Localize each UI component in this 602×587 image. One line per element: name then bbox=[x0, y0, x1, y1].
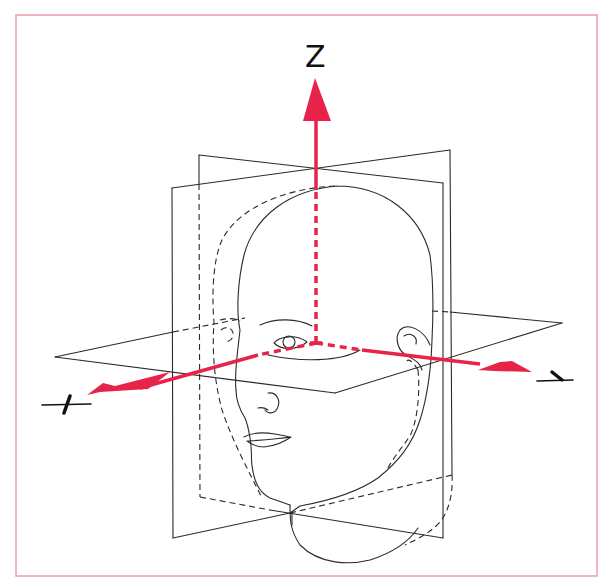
head-outline bbox=[235, 186, 432, 513]
y-arrowhead bbox=[478, 361, 532, 372]
y-axis-label-mark bbox=[537, 372, 573, 381]
iris bbox=[283, 336, 295, 348]
neck-outline bbox=[290, 505, 418, 563]
ear bbox=[397, 327, 430, 370]
jaw-profile-outline bbox=[405, 475, 452, 545]
y-axis bbox=[316, 343, 573, 381]
cheek-line bbox=[268, 350, 360, 360]
z-axis: Z bbox=[303, 39, 331, 343]
z-arrowhead bbox=[303, 78, 331, 121]
z-axis-label: Z bbox=[305, 39, 326, 74]
x-axis bbox=[42, 343, 316, 413]
figure-frame bbox=[16, 15, 597, 576]
eyebrow bbox=[260, 320, 312, 326]
horizontal-plane bbox=[55, 311, 562, 393]
nose bbox=[258, 393, 279, 413]
head-axes-diagram: Z bbox=[0, 0, 602, 587]
x-axis-label-mark bbox=[42, 396, 91, 413]
